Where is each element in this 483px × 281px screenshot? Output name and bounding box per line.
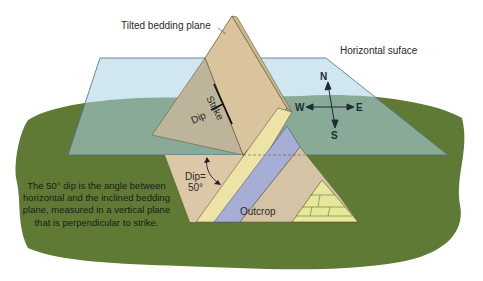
compass-north: N (320, 71, 327, 83)
tilted-bedding-plane-label: Tilted bedding plane (121, 20, 211, 32)
diagram-canvas (0, 0, 483, 281)
dip-angle-label-line2: 50° (188, 182, 203, 194)
dip-explanation-caption: The 50° dip is the angle between horizon… (14, 180, 179, 229)
outcrop-label: Outcrop (240, 206, 276, 218)
horizontal-surface-label: Horizontal suface (340, 45, 417, 57)
compass-west: W (295, 102, 304, 114)
compass-south: S (331, 130, 338, 142)
compass-east: E (356, 102, 363, 114)
